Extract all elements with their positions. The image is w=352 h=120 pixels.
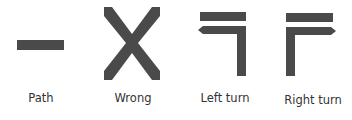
x-cross-icon: [104, 7, 160, 80]
path-bar-icon: [17, 40, 64, 50]
right-turn-icon: [286, 13, 336, 76]
left-turn-icon: [198, 12, 246, 76]
label-path: Path: [28, 91, 53, 105]
label-wrong: Wrong: [115, 91, 152, 105]
label-left-turn: Left turn: [201, 91, 250, 105]
label-right-turn: Right turn: [284, 93, 342, 107]
